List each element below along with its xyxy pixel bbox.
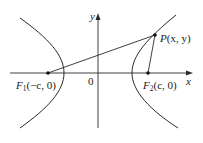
- x-axis-label: x: [185, 75, 191, 87]
- focus-f2-coords: (c, 0): [153, 79, 177, 92]
- y-axis-arrow-icon: [96, 13, 101, 20]
- point-p-dot: [153, 33, 157, 37]
- focus-f2-dot: [146, 71, 150, 75]
- focus-f1-dot: [46, 71, 50, 75]
- focus-f1-label: F1(−c, 0): [15, 79, 56, 93]
- y-axis: [96, 13, 101, 128]
- origin-label: 0: [88, 75, 94, 87]
- hyperbola-diagram: y x 0 F1(−c, 0) F2(c, 0) P(x, y): [0, 0, 203, 143]
- x-axis: [10, 71, 193, 76]
- y-axis-label: y: [89, 10, 95, 22]
- point-p-coords: (x, y): [167, 32, 191, 45]
- segment-f2-p: [148, 35, 155, 73]
- focus-f1-coords: (−c, 0): [26, 79, 56, 92]
- point-p-label: P(x, y): [159, 32, 191, 45]
- segment-f1-p: [48, 35, 155, 73]
- focus-f2-label: F2(c, 0): [142, 79, 177, 93]
